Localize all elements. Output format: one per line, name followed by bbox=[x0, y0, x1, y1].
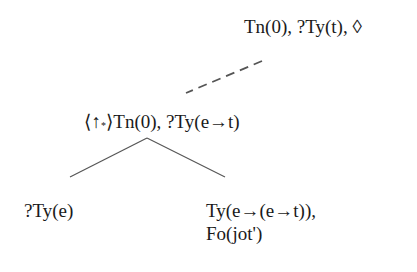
root-node-label: Tn(0), ?Ty(t), ◊ bbox=[244, 16, 362, 38]
edge-to-right-child bbox=[147, 138, 225, 177]
edge-to-left-child bbox=[70, 138, 147, 177]
unfixed-node-label: ⟨↑*⟩Tn(0), ?Ty(e→t) bbox=[84, 111, 240, 137]
left-child-label: ?Ty(e) bbox=[24, 200, 73, 222]
up-star-modality-open: ⟨↑ bbox=[84, 111, 101, 132]
right-child-label-line1: Ty(e→(e→t)), bbox=[206, 200, 316, 222]
unfixed-node-text: ⟩Tn(0), ?Ty(e→t) bbox=[106, 111, 240, 132]
right-child-label-line2: Fo(jot') bbox=[206, 223, 262, 245]
dashed-edge-root-to-unfixed bbox=[186, 61, 262, 93]
